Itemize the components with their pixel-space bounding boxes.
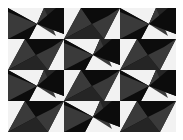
- pattern-row-2: [8, 39, 176, 70]
- tile-a: [8, 8, 64, 39]
- tile-b: [8, 101, 64, 132]
- tile-a: [64, 101, 120, 132]
- tile-b: [8, 39, 64, 70]
- tile-a: [120, 70, 176, 101]
- pattern-row-3: [8, 70, 176, 101]
- tile-b: [64, 8, 120, 39]
- tile-a: [120, 8, 176, 39]
- tile-b: [64, 70, 120, 101]
- tile-a: [64, 39, 120, 70]
- geometric-pattern: [8, 8, 176, 132]
- pattern-row-1: [8, 8, 176, 39]
- tile-a: [8, 70, 64, 101]
- pattern-row-4: [8, 101, 176, 132]
- tile-b: [120, 39, 176, 70]
- tile-b: [120, 101, 176, 132]
